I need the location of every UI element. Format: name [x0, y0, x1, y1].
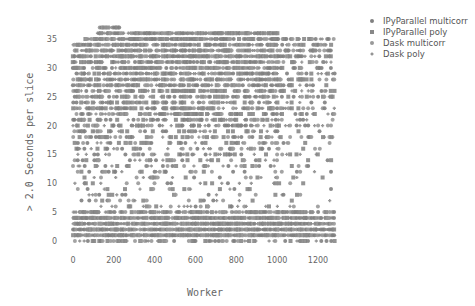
data-point-marker: [328, 199, 331, 202]
data-point-marker: [302, 37, 306, 41]
data-point-marker: [83, 129, 87, 133]
data-point-marker: [88, 193, 91, 196]
data-point-marker: [298, 170, 302, 174]
data-point-marker: [275, 95, 278, 98]
data-point-marker: [113, 37, 117, 41]
data-point-marker: [110, 66, 114, 70]
data-point-marker: [246, 129, 250, 133]
data-point-marker: [168, 95, 172, 99]
data-point-marker: [118, 199, 122, 203]
data-point-marker: [136, 181, 140, 185]
data-point-marker: [242, 216, 246, 220]
data-point-marker: [94, 112, 97, 115]
data-point-marker: [105, 187, 109, 191]
data-point-marker: [183, 141, 187, 145]
legend-item-ipyparallel-poly[interactable]: IPyParallel poly: [370, 27, 447, 37]
data-point-marker: [286, 95, 290, 99]
data-point-marker: [205, 118, 209, 122]
data-point-marker: [329, 170, 333, 174]
x-tick-label: 400: [147, 256, 162, 265]
data-point-marker: [316, 204, 320, 208]
data-point-marker: [244, 233, 248, 237]
data-point-marker: [192, 176, 196, 180]
data-point-marker: [223, 89, 227, 93]
data-point-marker: [252, 147, 256, 151]
data-point-marker: [164, 106, 168, 110]
data-point-marker: [229, 158, 233, 162]
data-point-marker: [332, 222, 336, 226]
data-point-marker: [316, 95, 320, 99]
data-point-marker: [280, 112, 284, 116]
data-point-marker: [173, 95, 177, 99]
data-point-marker: [273, 193, 277, 197]
legend-label: IPyParallel poly: [383, 27, 447, 37]
data-point-marker: [195, 83, 199, 87]
data-point-marker: [194, 170, 198, 174]
data-point-marker: [112, 147, 115, 150]
data-point-marker: [172, 77, 176, 81]
data-point-marker: [113, 135, 117, 139]
data-point-marker: [236, 205, 239, 208]
data-point-marker: [275, 112, 279, 116]
data-point-marker: [124, 193, 128, 197]
data-point-marker: [181, 135, 185, 139]
data-point-marker: [234, 118, 238, 122]
legend-item-ipyparallel-multicorr[interactable]: IPyParallel multicorr: [370, 16, 468, 26]
data-point-marker: [133, 106, 137, 110]
data-point-marker: [107, 170, 111, 174]
data-point-marker: [186, 205, 189, 208]
data-point-marker: [119, 89, 123, 93]
data-point-marker: [130, 210, 134, 214]
data-point-marker: [321, 176, 325, 180]
data-point-marker: [210, 77, 214, 81]
data-point-marker: [127, 164, 131, 168]
data-point-marker: [97, 193, 101, 197]
legend-label: Dask multicorr: [383, 38, 446, 48]
data-point-marker: [251, 37, 255, 41]
data-point-marker: [164, 170, 168, 174]
data-point-marker: [83, 164, 87, 168]
data-point-marker: [329, 187, 333, 191]
data-point-marker: [162, 112, 166, 116]
data-point-marker: [115, 147, 119, 151]
data-point-marker: [298, 84, 301, 87]
data-point-marker: [86, 239, 90, 243]
data-point-marker: [145, 43, 149, 47]
data-point-marker: [85, 141, 89, 145]
data-point-marker: [292, 204, 296, 208]
data-point-marker: [320, 66, 324, 70]
data-point-marker: [283, 239, 287, 243]
data-point-marker: [277, 181, 281, 185]
data-point-marker: [108, 141, 112, 145]
square-marker-icon: [370, 30, 374, 34]
data-point-marker: [239, 164, 243, 168]
legend-item-dask-poly[interactable]: Dask poly: [371, 49, 425, 59]
x-tick-label: 600: [188, 256, 203, 265]
data-point-marker: [237, 89, 241, 93]
data-point-marker: [199, 182, 202, 185]
data-point-marker: [105, 135, 109, 139]
data-point-marker: [192, 164, 195, 167]
data-point-marker: [253, 153, 256, 156]
data-point-marker: [254, 158, 258, 162]
data-point-marker: [148, 112, 152, 116]
data-point-marker: [123, 210, 127, 214]
y-axis-ticks: 05101520253035: [47, 35, 57, 246]
data-point-marker: [101, 101, 105, 105]
data-point-marker: [115, 193, 118, 196]
data-point-marker: [303, 141, 307, 145]
legend-item-dask-multicorr[interactable]: Dask multicorr: [370, 38, 446, 48]
data-point-marker: [86, 101, 90, 105]
data-point-marker: [104, 153, 107, 156]
data-point-marker: [276, 37, 280, 41]
data-point-marker: [125, 141, 129, 145]
data-point-marker: [267, 72, 271, 76]
data-point-marker: [277, 147, 281, 151]
x-tick-label: 800: [229, 256, 244, 265]
data-point-marker: [107, 152, 111, 156]
data-point-marker: [195, 60, 199, 64]
data-point-marker: [305, 112, 309, 116]
data-point-marker: [238, 210, 242, 214]
data-point-marker: [109, 136, 112, 139]
data-point-marker: [231, 129, 235, 133]
